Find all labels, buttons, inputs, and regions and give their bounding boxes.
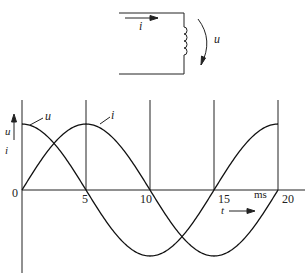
chart-axes (12, 100, 306, 273)
series-u-label: u (45, 109, 51, 123)
tick-label-5: 5 (82, 192, 88, 206)
x-unit-label: ms (254, 188, 267, 200)
figure: i u u i u i 0 5 10 15 20 ms t (0, 0, 305, 276)
t-arrowhead-icon (247, 209, 255, 214)
y-label-i: i (5, 144, 8, 156)
series-i-label: i (111, 108, 114, 122)
i-leader-line (100, 117, 110, 124)
u-leader-line (30, 118, 43, 125)
tick-label-20: 20 (282, 192, 294, 206)
current-label: i (139, 19, 142, 33)
origin-label: 0 (12, 186, 18, 200)
circuit-diagram (119, 13, 207, 74)
y-label-u: u (5, 125, 11, 137)
voltage-label: u (214, 32, 220, 46)
current-arrowhead-icon (150, 16, 158, 21)
voltage-arrowhead-icon (201, 56, 206, 65)
y-arrowhead-icon (12, 114, 17, 122)
tick-label-10: 10 (140, 192, 152, 206)
inductor-coil-icon (184, 27, 187, 55)
